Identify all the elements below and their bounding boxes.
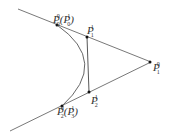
bezier-subdivision-diagram: P00(P01) P11 P10 P21 P20(P31) — [0, 0, 172, 137]
tangent-line-top — [18, 9, 151, 62]
label-p1-1: P11 — [87, 24, 94, 38]
control-segment — [87, 37, 89, 92]
label-p1-0: P10 — [153, 61, 160, 75]
tangent-line-bottom — [10, 62, 151, 131]
bezier-curve — [57, 25, 85, 106]
diagram-graphics — [0, 0, 172, 137]
label-p0: P00(P01) — [53, 13, 74, 27]
label-p2-1: P21 — [91, 94, 98, 108]
point-p1-0 — [149, 61, 152, 64]
label-p2: P20(P31) — [57, 105, 78, 119]
